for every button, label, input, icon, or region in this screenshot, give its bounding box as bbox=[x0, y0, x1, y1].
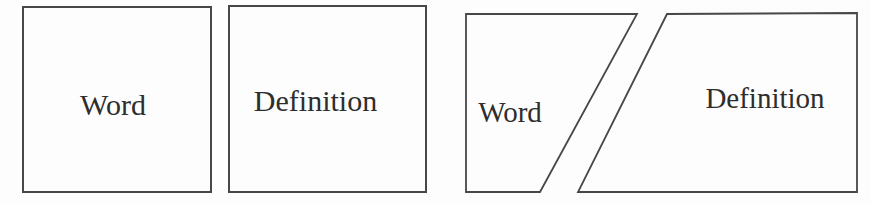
split-card-definition-label: Definition bbox=[705, 82, 825, 114]
split-card-word-label: Word bbox=[478, 96, 542, 128]
definition-card: Definition bbox=[228, 5, 427, 193]
definition-card-label: Definition bbox=[254, 86, 377, 116]
flashcard-diagram: Word Definition Word Definition bbox=[0, 0, 871, 203]
word-card-label: Word bbox=[80, 90, 146, 120]
word-card: Word bbox=[22, 6, 212, 193]
split-flashcard: Word Definition bbox=[455, 0, 871, 203]
